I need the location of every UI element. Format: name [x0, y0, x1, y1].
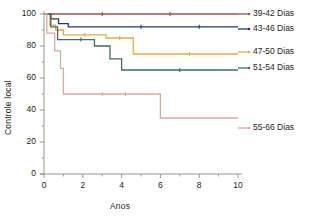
- legend-label-0: 39-42 Dias: [253, 8, 294, 18]
- legend-marker-2: [248, 51, 251, 54]
- series-line-3: [44, 14, 238, 70]
- legend-label-1: 43-46 Dias: [253, 23, 294, 33]
- y-tick-label: 60: [14, 72, 36, 82]
- series-line-2: [44, 14, 238, 54]
- legend-label-4: 55-66 Dias: [253, 122, 294, 132]
- y-tick-label: 20: [14, 136, 36, 146]
- legend-label-2: 47-50 Dias: [253, 46, 294, 56]
- x-tick-label: 10: [230, 180, 246, 190]
- legend-marker-0: [248, 13, 251, 16]
- legend-label-3: 51-54 Dias: [253, 62, 294, 72]
- legend-marker-3: [248, 67, 251, 70]
- x-tick-label: 2: [75, 180, 91, 190]
- y-tick-label: 40: [14, 104, 36, 114]
- x-tick-label: 4: [114, 180, 130, 190]
- legend-marker-4: [248, 127, 251, 130]
- x-tick-label: 6: [152, 180, 168, 190]
- x-tick-label: 8: [191, 180, 207, 190]
- chart-container: Controle local Anos 02040608010002468103…: [0, 0, 312, 216]
- legend-marker-1: [248, 28, 251, 31]
- series-line-4: [44, 14, 238, 118]
- y-tick-label: 80: [14, 40, 36, 50]
- x-tick-label: 0: [36, 180, 52, 190]
- y-tick-label: 100: [14, 8, 36, 18]
- y-tick-label: 0: [14, 168, 36, 178]
